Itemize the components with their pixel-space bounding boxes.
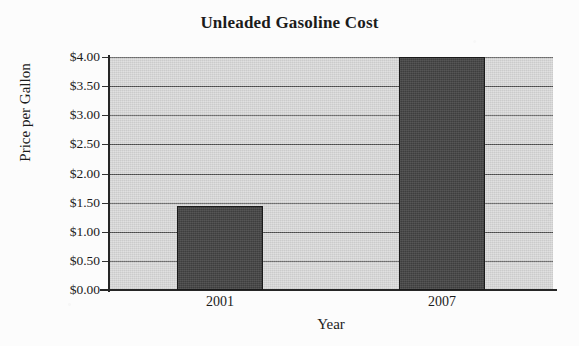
y-axis-tick-label: $3.00 [42,109,100,123]
y-axis-tick-label: $0.00 [42,283,100,297]
plot-area [109,57,553,290]
y-axis-label: Price per Gallon [17,43,34,183]
y-axis-tick-label: $4.00 [42,50,100,64]
x-axis-tick-label: 2007 [382,294,502,310]
y-axis-tick-label: $1.00 [42,225,100,239]
gridline [109,203,553,204]
y-axis-line [108,55,110,292]
x-axis-line [100,289,557,291]
gridline [109,57,553,58]
gridline [109,144,553,145]
bar-chart: Unleaded Gasoline Cost Price per Gallon … [0,0,579,346]
x-axis-tick-label: 2001 [160,294,280,310]
y-axis-tick-label: $2.00 [42,167,100,181]
bar [399,57,485,290]
y-axis-tick-label: $3.50 [42,79,100,93]
x-axis-label: Year [109,316,553,333]
y-axis-tick-label: $2.50 [42,138,100,152]
y-axis-tick-labels: $4.00$3.50$3.00$2.50$2.00$1.50$1.00$0.50… [42,57,100,290]
gridline [109,115,553,116]
bar [177,206,263,290]
gridline [109,232,553,233]
gridline [109,86,553,87]
gridline [109,261,553,262]
chart-title: Unleaded Gasoline Cost [0,13,579,33]
y-axis-tick-label: $0.50 [42,254,100,268]
gridline [109,174,553,175]
y-axis-tick-label: $1.50 [42,196,100,210]
